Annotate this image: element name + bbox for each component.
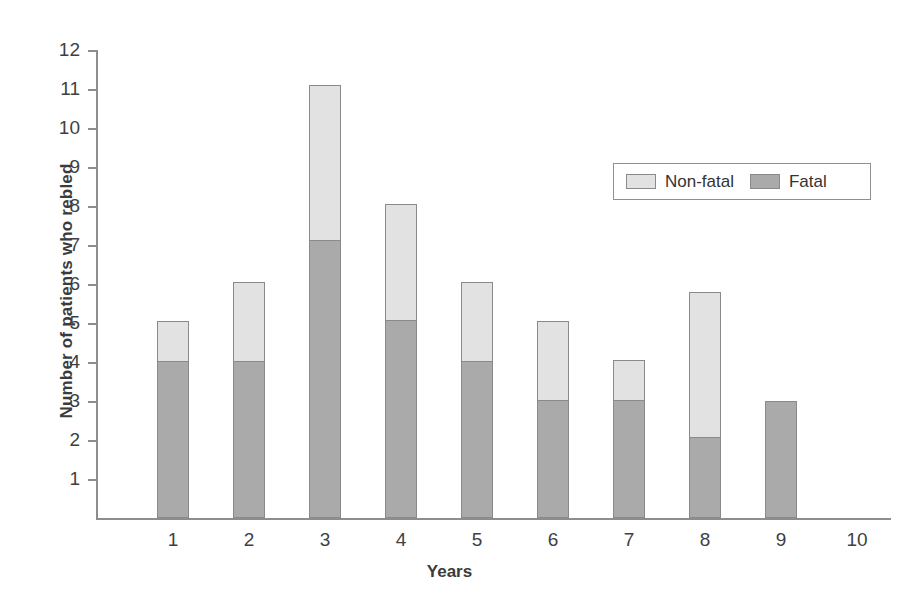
bar-segment-fatal [233, 362, 265, 518]
legend-label-fatal: Fatal [789, 172, 827, 192]
bar-stack [689, 292, 721, 518]
chart-figure: Number of patients who rebled 1211109876… [0, 0, 899, 602]
x-axis-tick-label: 4 [371, 529, 431, 551]
y-axis-tick-label: 9 [28, 157, 80, 176]
bar-stack [537, 321, 569, 518]
y-axis-tick-label: 10 [28, 118, 80, 137]
x-axis-title: Years [0, 562, 899, 582]
y-axis-tick [88, 167, 97, 169]
bar-segment-non-fatal [613, 360, 645, 401]
y-axis-tick [88, 479, 97, 481]
y-axis-tick [88, 128, 97, 130]
y-axis-tick [88, 50, 97, 52]
y-axis-tick-label: 2 [28, 430, 80, 449]
x-axis-tick-label: 1 [143, 529, 203, 551]
bar-segment-fatal [461, 362, 493, 518]
bar-segment-fatal [309, 241, 341, 518]
y-axis-tick [88, 284, 97, 286]
bar-segment-fatal [689, 438, 721, 518]
y-axis-tick [88, 89, 97, 91]
y-axis-tick-label: 3 [28, 391, 80, 410]
bar-segment-non-fatal [309, 85, 341, 241]
y-axis-tick-label: 7 [28, 235, 80, 254]
bar-segment-non-fatal [157, 321, 189, 362]
x-axis-tick-label: 9 [751, 529, 811, 551]
bar-stack [385, 204, 417, 518]
bar-segment-fatal [765, 401, 797, 518]
y-axis-tick [88, 206, 97, 208]
bar-stack [461, 282, 493, 518]
bar-segment-fatal [157, 362, 189, 518]
x-axis-line [96, 518, 891, 520]
chart-legend: Non-fatal Fatal [613, 163, 871, 200]
bar-segment-non-fatal [461, 282, 493, 362]
x-axis-tick-label: 3 [295, 529, 355, 551]
legend-label-non-fatal: Non-fatal [665, 172, 734, 192]
y-axis-tick [88, 401, 97, 403]
bar-segment-fatal [385, 321, 417, 518]
y-axis-tick-label: 12 [28, 40, 80, 59]
x-axis-tick-label: 7 [599, 529, 659, 551]
bar-segment-non-fatal [385, 204, 417, 321]
bar-stack [765, 401, 797, 518]
bar-stack [613, 360, 645, 518]
x-axis-tick-label: 6 [523, 529, 583, 551]
x-axis-tick-label: 2 [219, 529, 279, 551]
legend-swatch-fatal [750, 174, 780, 189]
bar-stack [309, 85, 341, 518]
y-axis-tick-label: 4 [28, 352, 80, 371]
y-axis-tick-label: 8 [28, 196, 80, 215]
x-axis-tick-label: 10 [827, 529, 887, 551]
x-axis-tick-label: 8 [675, 529, 735, 551]
legend-item-non-fatal: Non-fatal [626, 172, 734, 192]
y-axis-tick [88, 245, 97, 247]
legend-swatch-non-fatal [626, 174, 656, 189]
y-axis-tick [88, 323, 97, 325]
y-axis-tick [88, 362, 97, 364]
y-axis-tick [88, 440, 97, 442]
bar-segment-fatal [613, 401, 645, 518]
legend-item-fatal: Fatal [750, 172, 827, 192]
plot-area [98, 50, 891, 518]
bar-segment-non-fatal [233, 282, 265, 362]
y-axis-tick-label: 6 [28, 274, 80, 293]
bar-segment-fatal [537, 401, 569, 518]
bar-segment-non-fatal [689, 292, 721, 438]
x-axis-tick-label: 5 [447, 529, 507, 551]
y-axis-tick-label: 1 [28, 469, 80, 488]
bar-stack [233, 282, 265, 518]
y-axis-tick-label: 11 [28, 79, 80, 98]
bar-stack [157, 321, 189, 518]
bar-segment-non-fatal [537, 321, 569, 401]
y-axis-tick-label: 5 [28, 313, 80, 332]
